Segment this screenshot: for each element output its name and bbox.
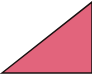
pink-triangle (2, 2, 92, 73)
triangle-canvas (0, 0, 92, 81)
